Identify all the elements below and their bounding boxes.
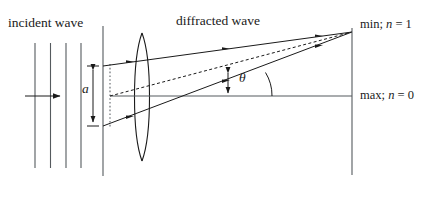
angle-arc xyxy=(266,73,273,97)
lens-icon xyxy=(135,33,150,161)
ray-center-dashed xyxy=(110,32,352,96)
lens-right-arc xyxy=(142,33,150,161)
minimum-label: min; n = 1 xyxy=(360,18,412,31)
diffracted-wave-label: diffracted wave xyxy=(176,14,260,28)
maximum-label-text: max; xyxy=(360,88,388,102)
minimum-order-value: = 1 xyxy=(392,17,412,31)
angle-theta-label: θ xyxy=(239,71,246,85)
maximum-label: max; n = 0 xyxy=(360,89,414,102)
minimum-label-text: min; xyxy=(360,17,386,31)
incident-wave-label: incident wave xyxy=(8,16,83,30)
diffraction-figure: incident wave diffracted wave min; n = 1… xyxy=(0,0,430,202)
ray-lower-edge-arrowhead-2 xyxy=(222,80,230,83)
ray-lower-edge-arrowhead-3 xyxy=(315,45,323,48)
maximum-order-value: = 0 xyxy=(394,88,414,102)
incident-wavefronts xyxy=(35,43,81,168)
ray-lower-edge-arrowhead-1 xyxy=(126,116,134,119)
lens-left-arc xyxy=(135,33,143,161)
slit-width-label: a xyxy=(82,82,89,96)
